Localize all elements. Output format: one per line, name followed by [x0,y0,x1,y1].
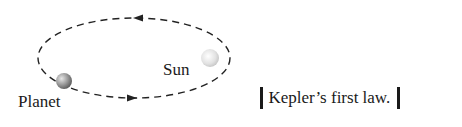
sun-icon [201,49,219,67]
sun-label: Sun [163,61,189,78]
caption-text: Kepler’s first law. [263,88,398,108]
figure-caption: Kepler’s first law. [260,86,400,110]
arrow-left-icon [133,15,143,22]
arrow-right-icon [127,95,137,102]
caption-bar-right [397,87,400,109]
planet-icon [56,73,72,89]
planet-label: Planet [18,93,61,110]
